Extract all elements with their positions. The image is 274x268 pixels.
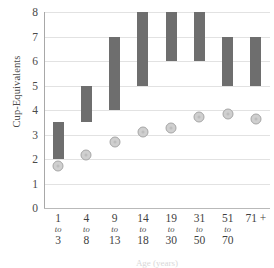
x-tick-line-2: to [211,224,245,234]
data-point-marker [109,136,120,147]
y-tick-label-2: 2 [8,153,38,165]
data-point-marker [53,161,64,172]
plot-area [44,12,270,208]
data-point-marker [81,150,92,161]
x-tick-line-1: 71 + [239,212,273,224]
data-point-marker [194,112,205,123]
x-tick-line-3: 70 [211,234,245,246]
data-point-marker [166,123,177,134]
average-markers [44,12,270,208]
y-tick-label-7: 7 [8,31,38,43]
data-point-marker [222,108,233,119]
y-tick-label-4: 4 [8,104,38,116]
y-tick-label-3: 3 [8,129,38,141]
y-tick-label-0: 0 [8,202,38,214]
x-axis-title: Age (years) [44,258,270,268]
y-tick-label-1: 1 [8,178,38,190]
x-tick-labels: 1to34to89to1314to1819to3031to5051to7071 … [44,212,270,258]
y-tick-label-5: 5 [8,80,38,92]
x-tick-label: 71 + [239,212,273,224]
data-point-marker [250,113,261,124]
y-tick-label-8: 8 [8,6,38,18]
gridline-0 [44,208,270,209]
data-point-marker [137,127,148,138]
y-tick-label-6: 6 [8,55,38,67]
